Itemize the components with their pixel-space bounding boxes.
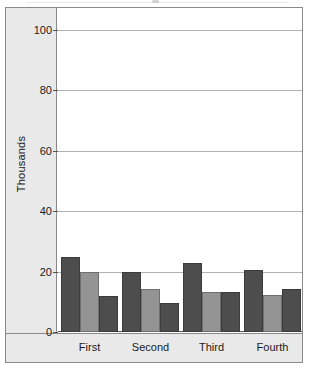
bar (263, 295, 282, 332)
y-tick-label: 0 (10, 326, 52, 338)
bar (61, 257, 80, 333)
plot-area (58, 30, 302, 332)
y-tick-label: 100 (10, 24, 52, 36)
scan-artifact-blob (152, 0, 159, 3)
y-tick-label: 20 (10, 266, 52, 278)
bar (244, 270, 263, 332)
bar (80, 272, 99, 332)
bar (183, 263, 202, 332)
bar (99, 296, 118, 332)
bars-layer (58, 30, 302, 332)
y-tick-label: 40 (10, 205, 52, 217)
y-axis-band: Thousands (6, 8, 57, 362)
bar (160, 303, 179, 332)
x-axis-label: Fourth (257, 341, 289, 353)
y-tick-mark (53, 332, 58, 333)
y-axis-title: Thousands (15, 129, 27, 199)
bar (122, 272, 141, 332)
bar (221, 292, 240, 332)
x-axis-label: Second (132, 341, 169, 353)
bar (202, 292, 221, 332)
bar (282, 289, 301, 332)
x-axis-label: Third (199, 341, 224, 353)
bar (141, 289, 160, 332)
x-axis-label: First (79, 341, 100, 353)
y-tick-label: 60 (10, 145, 52, 157)
bar-chart-figure: Thousands 020406080100 FirstSecondThirdF… (0, 0, 309, 370)
y-tick-label: 80 (10, 84, 52, 96)
